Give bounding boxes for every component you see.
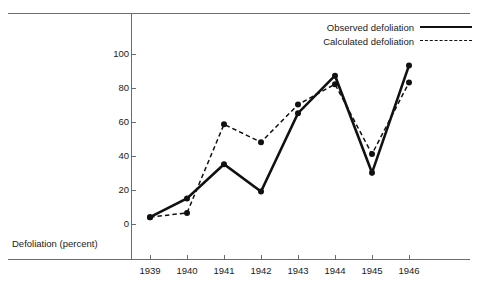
data-point-marker <box>369 170 375 176</box>
data-point-marker <box>184 210 190 216</box>
data-point-marker <box>406 62 412 68</box>
data-point-marker <box>295 102 301 108</box>
data-point-marker <box>295 110 301 116</box>
data-point-marker <box>369 151 375 157</box>
data-point-marker <box>332 73 338 79</box>
legend-item-calculated: Calculated defoliation <box>286 34 472 48</box>
legend-label-observed: Observed defoliation <box>327 22 414 33</box>
series-line-observed <box>150 65 409 217</box>
chart-legend: Observed defoliation Calculated defoliat… <box>286 20 472 48</box>
data-point-marker <box>258 139 264 145</box>
legend-item-observed: Observed defoliation <box>286 20 472 34</box>
data-point-marker <box>406 80 412 86</box>
data-point-marker <box>258 189 264 195</box>
data-point-marker <box>221 121 227 127</box>
data-point-marker <box>221 161 227 167</box>
legend-swatch-dashed-line-icon <box>420 38 472 45</box>
data-point-marker <box>147 214 153 220</box>
data-point-marker <box>184 195 190 201</box>
legend-label-calculated: Calculated defoliation <box>323 36 414 47</box>
chart-figure: 020406080100 193919401941194219431944194… <box>0 0 478 290</box>
series-markers-observed <box>147 62 412 220</box>
y-axis-title: Defoliation (percent) <box>12 238 98 249</box>
plot-area: 020406080100 193919401941194219431944194… <box>0 0 478 290</box>
data-point-marker <box>332 81 338 87</box>
legend-swatch-solid-line-icon <box>420 24 472 31</box>
